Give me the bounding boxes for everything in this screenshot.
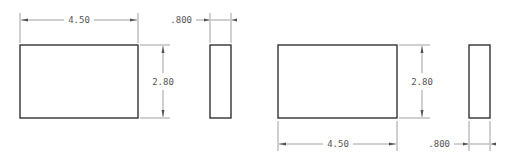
side-view-b	[469, 45, 490, 118]
width-dim-a: 4.50	[68, 15, 90, 25]
height-dim-a: 2.80	[152, 77, 174, 87]
thickness-dim-b: .800	[428, 139, 450, 149]
side-view-a	[210, 45, 231, 118]
thickness-dim-a: .800	[170, 15, 192, 25]
layout-b: 2.80 4.50 .800	[278, 45, 496, 151]
layout-a: 4.50 2.80 .800	[20, 13, 237, 118]
front-view-a	[20, 45, 138, 118]
technical-drawing: 4.50 2.80 .800 2.80 4.50	[0, 0, 509, 159]
front-view-b	[278, 45, 397, 118]
width-dim-b: 4.50	[327, 139, 349, 149]
height-dim-b: 2.80	[411, 77, 433, 87]
